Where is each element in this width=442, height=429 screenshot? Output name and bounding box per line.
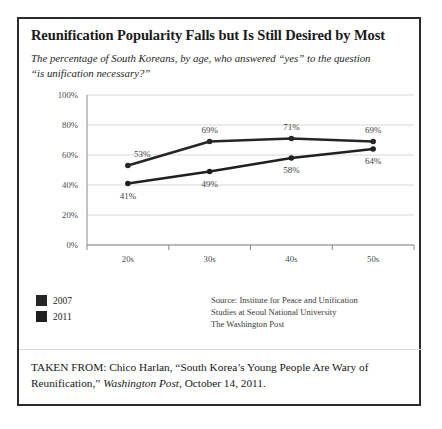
y-axis-tick-label: 100% [58, 90, 78, 100]
chart-title: Reunification Popularity Falls but Is St… [31, 27, 409, 44]
chart-subtitle: The percentage of South Koreans, by age,… [31, 51, 381, 82]
data-point-label: 64% [365, 156, 382, 166]
legend-label: 2011 [53, 312, 72, 322]
y-axis-tick-label: 40% [62, 180, 78, 190]
data-point-marker [125, 181, 131, 187]
legend-and-source-row: 20072011 Source: Institute for Peace and… [19, 287, 423, 347]
y-axis-tick-label: 0% [66, 240, 78, 250]
caption-suffix: , October 14, 2011. [179, 377, 266, 389]
source-note: Source: Institute for Peace and Unificat… [211, 294, 416, 331]
data-point-label: 58% [283, 165, 300, 175]
data-point-marker [289, 155, 295, 161]
chart-legend: 20072011 [36, 295, 72, 327]
legend-item-2011: 2011 [36, 311, 72, 322]
data-point-marker [370, 139, 376, 145]
data-point-label: 71% [283, 122, 300, 132]
figure-inner: Reunification Popularity Falls but Is St… [19, 19, 419, 404]
x-axis-category-label: 30s [204, 254, 217, 264]
line-chart-svg: 0%20%40%60%80%100%20s30s40s50s53%69%71%6… [19, 87, 423, 287]
figure-caption: TAKEN FROM: Chico Harlan, “South Korea’s… [31, 359, 413, 391]
data-point-marker [207, 169, 213, 175]
data-point-label: 41% [120, 191, 137, 201]
y-axis-tick-label: 60% [62, 150, 78, 160]
legend-swatch-icon [36, 295, 47, 306]
caption-divider [19, 349, 423, 350]
x-axis-category-label: 50s [367, 254, 380, 264]
figure-container: Reunification Popularity Falls but Is St… [17, 17, 421, 406]
legend-label: 2007 [53, 296, 72, 306]
legend-swatch-icon [36, 311, 47, 322]
chart-plot-area: 0%20%40%60%80%100%20s30s40s50s53%69%71%6… [19, 87, 423, 287]
legend-item-2007: 2007 [36, 295, 72, 306]
source-line-3: The Washington Post [211, 318, 416, 330]
caption-italic-title: Washington Post [103, 377, 179, 389]
source-line-2: Studies at Seoul National University [211, 306, 416, 318]
y-axis-tick-label: 20% [62, 210, 78, 220]
data-point-label: 49% [201, 179, 218, 189]
data-point-label: 69% [365, 125, 382, 135]
x-axis-category-label: 20s [122, 254, 135, 264]
x-axis-category-label: 40s [285, 254, 298, 264]
source-line-1: Source: Institute for Peace and Unificat… [211, 294, 416, 306]
y-axis-tick-label: 80% [62, 120, 78, 130]
data-point-marker [125, 163, 131, 169]
data-point-marker [370, 146, 376, 152]
data-point-marker [207, 139, 213, 145]
data-point-label: 69% [201, 125, 218, 135]
data-point-marker [289, 136, 295, 142]
data-point-label: 53% [134, 149, 151, 159]
